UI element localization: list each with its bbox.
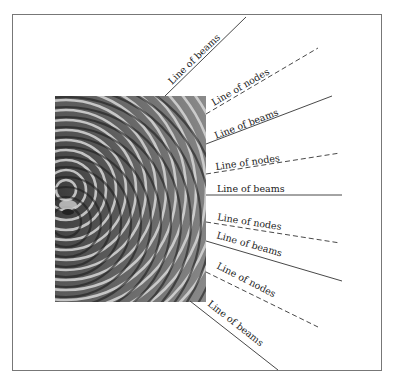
- ripple-tank-image: [0, 30, 226, 377]
- label-beams-2: Line of beams: [213, 106, 280, 141]
- label-beams-3: Line of beams: [217, 183, 285, 194]
- label-beams-1: Line of beams: [166, 31, 222, 86]
- label-beams-5: Line of beams: [206, 298, 266, 348]
- node-line-1: [206, 48, 318, 114]
- interference-diagram: Line of beams Line of nodes Line of beam…: [0, 0, 394, 381]
- beam-line-5: [190, 301, 278, 370]
- label-nodes-1: Line of nodes: [210, 66, 272, 108]
- label-nodes-2: Line of nodes: [215, 152, 281, 172]
- label-nodes-4: Line of nodes: [215, 260, 278, 299]
